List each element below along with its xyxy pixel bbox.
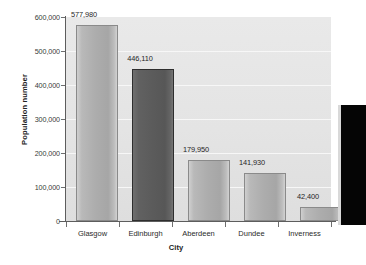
plot-area [66, 17, 331, 221]
y-axis-tick-labels: 600,000 500,000 400,000 300,000 200,000 … [14, 0, 60, 265]
x-tick-mark [331, 222, 332, 227]
x-tick-mark [278, 222, 279, 227]
x-tick-mark [225, 222, 226, 227]
y-tick-label: 400,000 [18, 81, 60, 90]
y-tick-label: 200,000 [18, 149, 60, 158]
x-axis-label-inverness: Inverness [278, 229, 331, 238]
y-axis-line [65, 16, 66, 222]
bar-inverness [300, 207, 342, 221]
x-tick-mark [119, 222, 120, 227]
y-tick-label: 0 [18, 217, 60, 226]
bar-chart: Population number 600,000 500,000 400,00… [0, 0, 366, 265]
bar-value-label-dundee: 141,930 [222, 158, 282, 167]
y-tick-label: 100,000 [18, 183, 60, 192]
bar-value-label-inverness: 42,400 [278, 192, 338, 201]
x-axis-label-glasgow: Glasgow [66, 229, 119, 238]
x-tick-mark [172, 222, 173, 227]
x-axis-label-dundee: Dundee [225, 229, 278, 238]
x-axis-title-text: City [169, 243, 183, 252]
x-axis-label-edinburgh: Edinburgh [119, 229, 172, 238]
y-tick-label: 300,000 [18, 115, 60, 124]
x-tick-mark [66, 222, 67, 227]
bar-aberdeen [188, 160, 230, 221]
x-axis-title: City [0, 243, 366, 252]
bar-value-label-edinburgh: 446,110 [110, 54, 170, 63]
bar-value-label-aberdeen: 179,950 [166, 145, 226, 154]
x-axis-line [59, 221, 336, 222]
bar-value-label-glasgow: 577,980 [54, 10, 114, 19]
x-axis-label-aberdeen: Aberdeen [172, 229, 225, 238]
black-scan-artifact [341, 105, 366, 225]
y-tick-label: 500,000 [18, 47, 60, 56]
